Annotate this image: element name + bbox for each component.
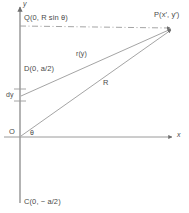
point-label-p: P(x′, y′) bbox=[154, 11, 179, 19]
segment-label-r-of-y: r(y) bbox=[76, 50, 87, 57]
figure-canvas: y x Q(0, R sin θ) P(x′, y′) D(0, a/2) O … bbox=[0, 0, 189, 213]
segment-r-of-y bbox=[21, 29, 171, 96]
point-label-d: D(0, a/2) bbox=[24, 65, 54, 73]
point-label-c: C(0, − a/2) bbox=[24, 198, 61, 206]
q-to-p-construction-line bbox=[20, 26, 170, 28]
x-axis-label: x bbox=[177, 131, 181, 138]
segment-R bbox=[21, 30, 171, 136]
segment-label-R: R bbox=[103, 79, 109, 87]
point-label-q: Q(0, R sin θ) bbox=[24, 14, 68, 22]
diagram-svg bbox=[0, 0, 189, 213]
segment-label-dy: dy bbox=[6, 91, 14, 98]
angle-label-theta: θ bbox=[30, 129, 34, 136]
y-axis-label: y bbox=[23, 0, 27, 7]
origin-label: O bbox=[9, 128, 15, 136]
